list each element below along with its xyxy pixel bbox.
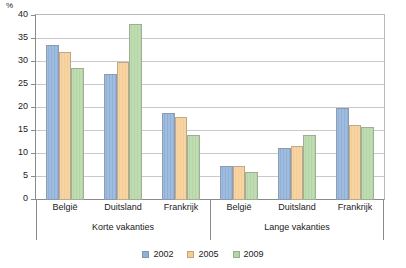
bar-2002-Duitsland[interactable]	[104, 74, 117, 200]
bar-2009-Duitsland[interactable]	[129, 24, 142, 200]
y-tick-label: 30	[2, 56, 28, 65]
bar-2005-Frankrijk[interactable]	[349, 125, 362, 200]
category-label: Duitsland	[94, 202, 152, 213]
bar-2009-Duitsland[interactable]	[303, 135, 316, 200]
legend-item-2005[interactable]: 2005	[187, 249, 218, 259]
bar-2002-Frankrijk[interactable]	[336, 108, 349, 200]
bar-group	[220, 15, 258, 200]
bar-2005-België[interactable]	[59, 52, 72, 200]
legend-item-2009[interactable]: 2009	[233, 249, 264, 259]
panel-separator-plot	[210, 15, 211, 199]
grouped-bar-chart: % 0510152025303540 BelgiëDuitslandFrankr…	[0, 0, 406, 268]
bar-2005-België[interactable]	[233, 166, 246, 200]
legend-swatch-icon	[187, 251, 194, 258]
bar-group	[104, 15, 142, 200]
category-axis-tick	[36, 200, 37, 240]
y-tick-mark	[31, 107, 35, 108]
bar-2009-België[interactable]	[71, 68, 84, 200]
category-label: Duitsland	[268, 202, 326, 213]
y-tick-label: 0	[2, 194, 28, 203]
y-tick-mark	[31, 61, 35, 62]
bar-2009-Frankrijk[interactable]	[361, 127, 374, 200]
bar-group	[46, 15, 84, 200]
y-tick-label: 20	[2, 102, 28, 111]
panel-label: Lange vakanties	[210, 222, 384, 233]
legend-item-2002[interactable]: 2002	[142, 249, 173, 259]
y-tick-label: 35	[2, 33, 28, 42]
legend: 200220052009	[0, 246, 406, 262]
y-tick-label: 5	[2, 171, 28, 180]
legend-swatch-icon	[142, 251, 149, 258]
y-tick-mark	[31, 153, 35, 154]
y-axis: 0510152025303540	[0, 0, 35, 201]
category-label: Frankrijk	[326, 202, 384, 213]
bar-2005-Duitsland[interactable]	[117, 62, 130, 200]
y-tick-mark	[31, 15, 35, 16]
panel-label: Korte vakanties	[36, 222, 210, 233]
y-tick-label: 40	[2, 10, 28, 19]
bar-2005-Duitsland[interactable]	[291, 146, 304, 200]
y-tick-mark	[31, 38, 35, 39]
y-tick-label: 10	[2, 148, 28, 157]
bar-2009-België[interactable]	[245, 172, 258, 200]
y-tick-label: 15	[2, 125, 28, 134]
category-axis-tick	[383, 200, 384, 240]
y-tick-label: 25	[2, 79, 28, 88]
category-axis: BelgiëDuitslandFrankrijkBelgiëDuitslandF…	[36, 200, 384, 242]
legend-swatch-icon	[233, 251, 240, 258]
y-tick-mark	[31, 199, 35, 200]
y-tick-mark	[31, 84, 35, 85]
bar-group	[336, 15, 374, 200]
bar-2002-Duitsland[interactable]	[278, 148, 291, 200]
bar-group	[278, 15, 316, 200]
legend-label: 2002	[153, 249, 173, 259]
legend-label: 2005	[198, 249, 218, 259]
category-axis-tick	[210, 200, 211, 240]
bar-2002-België[interactable]	[46, 45, 59, 200]
y-tick-mark	[31, 130, 35, 131]
bars-layer	[36, 15, 384, 200]
bar-2009-Frankrijk[interactable]	[187, 135, 200, 200]
y-tick-mark	[31, 176, 35, 177]
legend-label: 2009	[244, 249, 264, 259]
bar-2002-Frankrijk[interactable]	[162, 113, 175, 200]
bar-2002-België[interactable]	[220, 166, 233, 200]
bar-2005-Frankrijk[interactable]	[175, 117, 188, 200]
category-label: België	[36, 202, 94, 213]
category-label: Frankrijk	[152, 202, 210, 213]
bar-group	[162, 15, 200, 200]
category-label: België	[210, 202, 268, 213]
